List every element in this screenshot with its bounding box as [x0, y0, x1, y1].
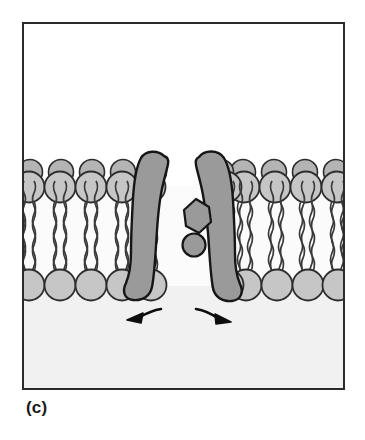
figure-caption: (c) — [26, 398, 47, 418]
extracellular-space — [23, 23, 344, 168]
membrane-channel-diagram — [0, 0, 365, 440]
figure-panel: (c) — [0, 0, 365, 440]
bilayer-hydrophobic-core — [23, 186, 344, 286]
circular-domain — [183, 234, 206, 257]
cytoplasm-space — [23, 284, 344, 390]
